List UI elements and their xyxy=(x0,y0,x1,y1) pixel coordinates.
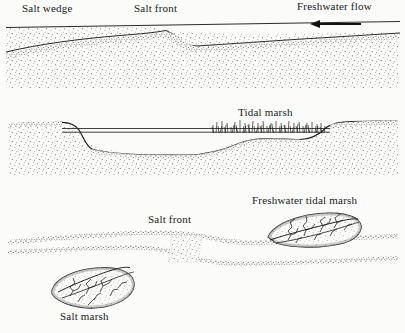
label-salt-front-upper: Salt front xyxy=(134,3,177,14)
salt-marsh-island xyxy=(46,262,142,312)
label-salt-front-lower: Salt front xyxy=(148,214,191,225)
label-salt-marsh: Salt marsh xyxy=(60,311,109,322)
sediment-fill-upper xyxy=(0,20,405,95)
label-freshwater-tidal-marsh: Freshwater tidal marsh xyxy=(252,195,357,206)
estuary-diagram: Salt wedge Salt front Freshwater flow Ti… xyxy=(0,0,405,333)
diagram-canvas xyxy=(0,0,405,333)
label-salt-wedge: Salt wedge xyxy=(22,3,73,14)
label-tidal-marsh: Tidal marsh xyxy=(238,107,293,118)
freshwater-flow-arrow xyxy=(310,20,361,28)
salt-front-band xyxy=(168,236,202,262)
tidal-marsh-vegetation xyxy=(212,120,325,133)
freshwater-tidal-marsh-island xyxy=(262,208,372,254)
panel-longitudinal-profile xyxy=(0,20,405,95)
panel-plan-view xyxy=(8,208,398,312)
label-freshwater-flow: Freshwater flow xyxy=(297,1,372,12)
panel-channel-cross-section xyxy=(0,118,405,176)
